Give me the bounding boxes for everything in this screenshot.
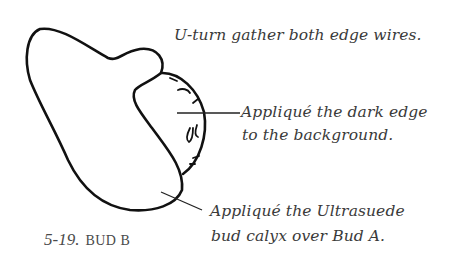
annotation-u-turn: U-turn gather both edge wires.	[174, 24, 422, 46]
annotation-dark-edge-line2: to the background.	[242, 124, 393, 146]
figure-title: BUD B	[85, 233, 130, 248]
annotation-calyx-line1: Appliqué the Ultrasuede	[210, 200, 405, 222]
annotation-calyx-line2: bud calyx over Bud A.	[211, 225, 385, 247]
bud-outline	[27, 29, 182, 211]
leader-line-calyx	[161, 192, 202, 210]
figure-caption: 5-19.BUD B	[44, 230, 130, 250]
annotation-dark-edge-line1: Appliqué the dark edge	[241, 101, 428, 123]
figure-number: 5-19.	[44, 230, 79, 249]
bud-b-illustration: U-turn gather both edge wires. Appliqué …	[0, 0, 459, 273]
